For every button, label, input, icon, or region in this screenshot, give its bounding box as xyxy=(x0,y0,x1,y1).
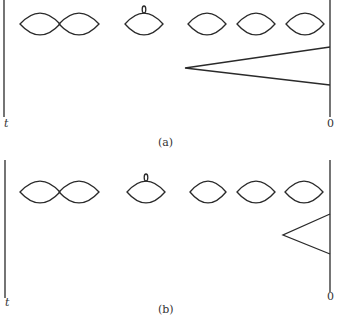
lens-shape xyxy=(125,13,163,35)
t-axis-label: t xyxy=(4,117,9,130)
panel-caption: (b) xyxy=(158,303,174,316)
panel-caption: (a) xyxy=(158,136,173,149)
lens-shape xyxy=(20,181,60,203)
lens-shape xyxy=(59,13,99,35)
lens-shape xyxy=(188,13,226,35)
lens-shape xyxy=(237,13,275,35)
panel-b: t 0 (b) xyxy=(5,160,334,316)
wedge-triangle xyxy=(185,47,330,85)
figure-canvas: t 0 (a) t 0 (b) xyxy=(0,0,340,323)
lens-shape xyxy=(59,181,99,203)
lens-shape xyxy=(286,13,324,35)
lens-row xyxy=(20,174,323,203)
lens-shape xyxy=(190,181,226,203)
t-axis-label: t xyxy=(5,296,10,309)
zero-axis-label: 0 xyxy=(327,290,334,303)
lens-shape xyxy=(237,181,275,203)
small-loop xyxy=(144,174,148,181)
lens-shape xyxy=(20,13,60,35)
small-loop xyxy=(142,6,146,13)
panel-a: t 0 (a) xyxy=(4,0,334,149)
zero-axis-label: 0 xyxy=(327,117,334,130)
wedge-triangle xyxy=(283,214,330,254)
lens-shape xyxy=(127,181,165,203)
lens-shape xyxy=(285,181,323,203)
lens-row xyxy=(20,6,324,35)
